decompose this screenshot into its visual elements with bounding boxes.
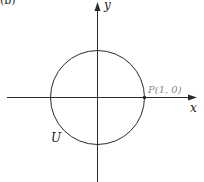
x-axis-arrow-icon xyxy=(188,95,197,101)
x-axis-label: x xyxy=(190,101,197,115)
unit-circle-diagram: (b) x y U P(1, 0) xyxy=(0,0,204,182)
y-axis-label: y xyxy=(103,0,111,12)
point-p-label: P(1, 0) xyxy=(147,84,182,95)
panel-label: (b) xyxy=(0,0,16,7)
y-axis-arrow-icon xyxy=(95,2,101,11)
circle-label: U xyxy=(51,131,62,145)
point-p-marker xyxy=(143,96,147,100)
